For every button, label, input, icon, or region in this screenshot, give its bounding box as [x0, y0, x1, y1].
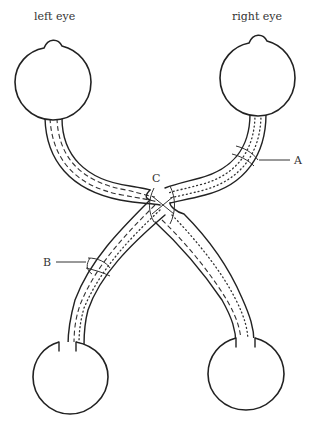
- cut-a: [232, 146, 290, 166]
- left-optic-nerve: [45, 118, 160, 205]
- right-target-circle: [208, 338, 284, 410]
- right-optic-nerve: [165, 114, 266, 203]
- cut-b: [56, 258, 110, 276]
- right-eye-label: right eye: [232, 10, 282, 23]
- right-optic-tract: [155, 203, 254, 345]
- right-eye: [220, 35, 295, 116]
- left-target-circle: [33, 342, 108, 414]
- label-c: C: [152, 172, 160, 185]
- visual-pathway-diagram: left eye right eye C: [0, 0, 314, 431]
- label-a: A: [293, 154, 303, 167]
- label-b: B: [43, 256, 51, 269]
- left-eye: [15, 40, 91, 120]
- left-eye-label: left eye: [34, 10, 75, 23]
